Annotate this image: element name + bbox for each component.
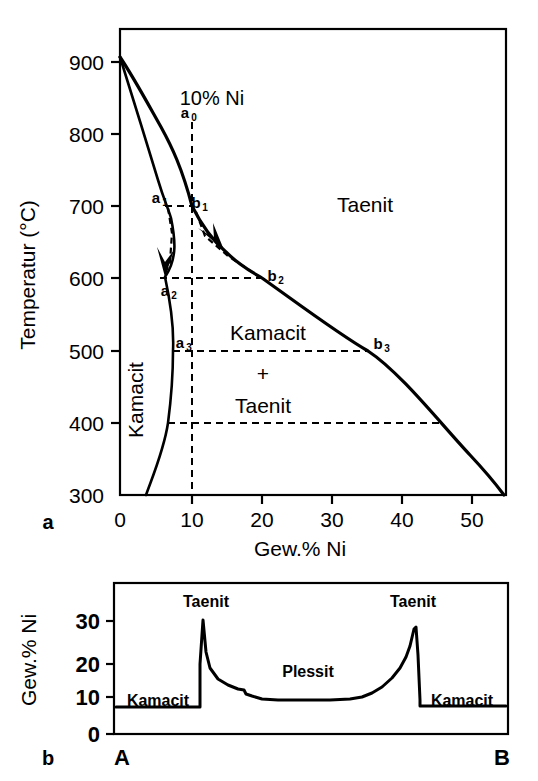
figure-root: 900 800 700 600 500 400 300 0 10 20 30 4… xyxy=(0,0,538,781)
panel-b-label-taenit-right: Taenit xyxy=(390,593,437,610)
x-tick-label-10: 10 xyxy=(180,508,203,531)
panel-b-x-start-label: A xyxy=(114,745,130,770)
y-tick-label-300: 300 xyxy=(69,484,104,507)
point-label-a1-base: a xyxy=(152,189,161,206)
region-label-mixed-kamacit: Kamacit xyxy=(230,321,306,344)
y-tick-label-400: 400 xyxy=(69,412,104,435)
x-tick-label-40: 40 xyxy=(390,508,413,531)
panel-b-letter: b xyxy=(42,747,54,769)
point-label-b3-base: b xyxy=(373,335,382,352)
y-tick-label-900: 900 xyxy=(69,51,104,74)
x-tick-label-50: 50 xyxy=(460,508,483,531)
region-label-kamacit-left: Kamacit xyxy=(124,362,147,438)
y-tick-label-800: 800 xyxy=(69,123,104,146)
point-label-a3-sub: 3 xyxy=(186,342,192,353)
panel-a-x-axis-title: Gew.% Ni xyxy=(254,537,346,560)
panel-b-label-taenit-left: Taenit xyxy=(183,593,230,610)
point-label-b2-sub: 2 xyxy=(278,275,284,286)
point-label-b3-sub: 3 xyxy=(384,343,390,354)
point-label-a3-base: a xyxy=(176,334,185,351)
panel-a-y-axis-title: Temperatur (°C) xyxy=(16,200,39,350)
x-tick-label-20: 20 xyxy=(250,508,273,531)
panel-b-label-plessit: Plessit xyxy=(282,663,334,680)
point-label-b1-sub: 1 xyxy=(202,202,208,213)
y-tick-label-b-0: 0 xyxy=(88,722,100,747)
point-label-a0-sub: 0 xyxy=(191,112,197,123)
point-label-a0-base: a xyxy=(181,104,190,121)
panel-b-label-kamacit-left: Kamacit xyxy=(127,692,190,709)
y-tick-label-700: 700 xyxy=(69,195,104,218)
y-tick-label-500: 500 xyxy=(69,340,104,363)
x-tick-label-0: 0 xyxy=(114,508,126,531)
y-tick-label-600: 600 xyxy=(69,267,104,290)
region-label-mixed-taenit: Taenit xyxy=(235,394,291,417)
y-tick-label-b-30: 30 xyxy=(76,609,100,634)
panel-b-label-kamacit-right: Kamacit xyxy=(431,692,494,709)
point-label-a1-sub: 1 xyxy=(162,197,168,208)
panel-a-letter: a xyxy=(42,511,54,533)
panel-b-y-axis-title: Gew.% Ni xyxy=(17,614,40,706)
point-label-a2-sub: 2 xyxy=(171,290,177,301)
region-label-taenit: Taenit xyxy=(337,193,393,216)
point-label-a2-base: a xyxy=(161,282,170,299)
region-label-mixed-plus: + xyxy=(257,362,269,385)
composition-label: 10% Ni xyxy=(180,87,244,109)
x-tick-label-30: 30 xyxy=(320,508,343,531)
y-tick-label-b-20: 20 xyxy=(76,652,100,677)
y-tick-label-b-10: 10 xyxy=(76,685,100,710)
point-label-b2-base: b xyxy=(267,267,276,284)
point-label-b1-base: b xyxy=(191,194,200,211)
panel-b-x-end-label: B xyxy=(494,745,510,770)
